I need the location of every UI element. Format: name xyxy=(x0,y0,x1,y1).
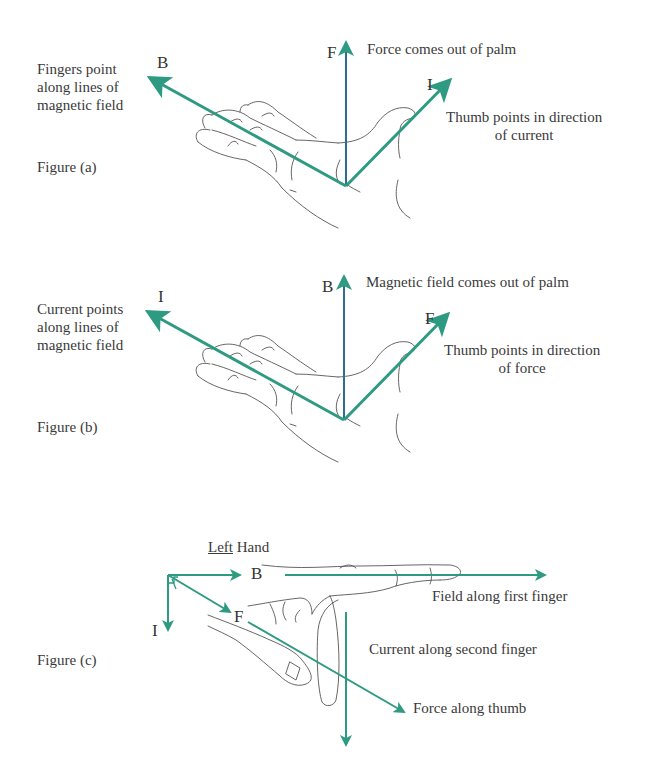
figure-a-label-f: F xyxy=(327,44,336,62)
figure-a-vectors xyxy=(152,44,448,186)
figure-c-label-i: I xyxy=(152,622,158,640)
annotation-line: magnetic field xyxy=(37,96,123,114)
figure-b-thumb-annotation: Thumb points in direction of force xyxy=(444,341,600,377)
figure-c-axes xyxy=(168,575,240,630)
figure-b-vectors xyxy=(150,278,446,420)
title-left-word: Left xyxy=(208,539,233,555)
axis-force-arrow xyxy=(168,575,230,612)
annotation-line: Thumb points in direction xyxy=(446,108,602,126)
figure-c-label-b: B xyxy=(251,565,262,583)
figure-a-caption: Figure (a) xyxy=(37,158,97,176)
figure-a-palm-annotation: Force comes out of palm xyxy=(367,40,516,58)
figure-a-label-b: B xyxy=(157,54,168,72)
figure-c-label-f: F xyxy=(234,608,243,626)
annotation-line: of current xyxy=(446,126,602,144)
annotation-line: Fingers point xyxy=(37,60,123,78)
current-vector-arrow xyxy=(150,313,344,420)
figure-a-label-i: I xyxy=(427,76,433,94)
figure-c-caption: Figure (c) xyxy=(37,651,97,669)
figure-b-fingers-annotation: Current points along lines of magnetic f… xyxy=(37,300,123,354)
annotation-line: magnetic field xyxy=(37,336,123,354)
annotation-line: along lines of xyxy=(37,78,123,96)
force-vector-arrow xyxy=(248,622,404,712)
figure-c-force-annotation: Force along thumb xyxy=(413,699,526,717)
figure-b-caption: Figure (b) xyxy=(37,418,97,436)
figure-c-hand xyxy=(208,565,461,706)
annotation-line: of force xyxy=(444,359,600,377)
current-vector-arrow xyxy=(346,82,448,186)
figure-b-palm-annotation: Magnetic field comes out of palm xyxy=(366,273,569,291)
field-vector-arrow xyxy=(152,79,346,186)
annotation-line: Thumb points in direction xyxy=(444,341,600,359)
fleming-hand-rules-diagram: Fingers point along lines of magnetic fi… xyxy=(0,0,666,770)
figure-a-fingers-annotation: Fingers point along lines of magnetic fi… xyxy=(37,60,123,114)
annotation-line: Current points xyxy=(37,300,123,318)
force-vector-arrow xyxy=(344,316,446,420)
figure-c-title: Left Hand xyxy=(208,538,269,556)
figure-c-field-annotation: Field along first finger xyxy=(432,587,567,605)
title-hand-word: Hand xyxy=(237,539,270,555)
figure-b-label-f: F xyxy=(425,310,434,328)
figure-b-label-i: I xyxy=(158,288,164,306)
figure-c-current-annotation: Current along second finger xyxy=(369,640,537,658)
annotation-line: along lines of xyxy=(37,318,123,336)
figure-a-thumb-annotation: Thumb points in direction of current xyxy=(446,108,602,144)
figure-b-label-b: B xyxy=(322,278,333,296)
